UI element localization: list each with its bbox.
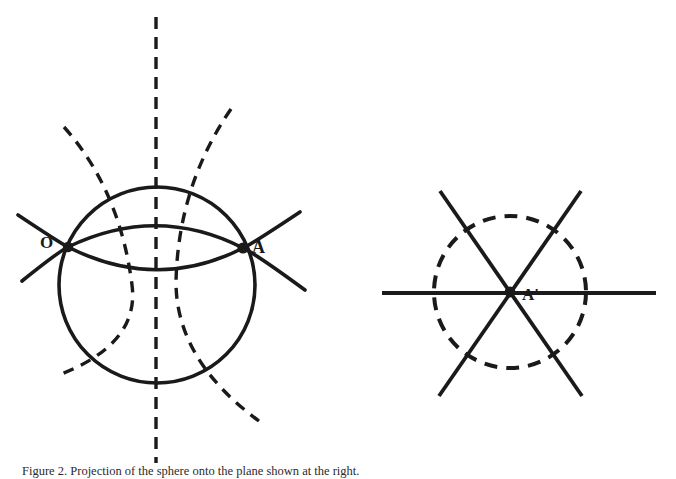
label-point-a-prime: A' (522, 286, 539, 303)
label-point-o: O (40, 234, 53, 251)
right-diagram-group (382, 191, 656, 396)
point-a-prime-dot (505, 287, 516, 298)
point-a-dot (237, 242, 248, 253)
figure-container: O A A' Figure 2. Projection of the spher… (0, 0, 676, 479)
point-o-dot (63, 242, 73, 252)
figure-svg-canvas (0, 0, 676, 479)
figure-caption: Figure 2. Projection of the sphere onto … (22, 464, 658, 479)
dashed-meridian-right (176, 109, 259, 421)
label-point-a: A (252, 238, 265, 256)
